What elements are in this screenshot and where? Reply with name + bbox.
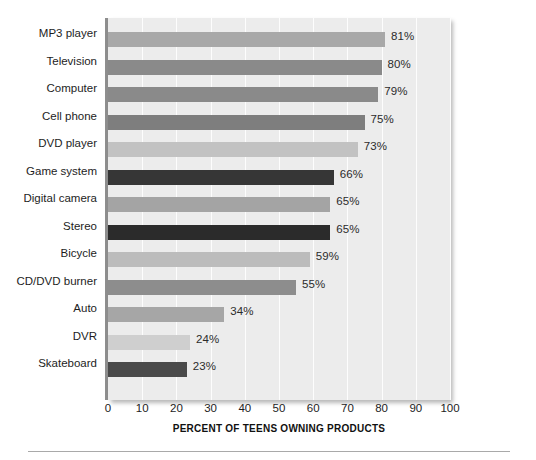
bar: [108, 32, 385, 47]
category-label-game-system: Game system: [26, 158, 101, 186]
category-label-television: Television: [47, 48, 102, 76]
category-label-computer: Computer: [47, 75, 102, 103]
x-tick-10: 10: [136, 402, 149, 414]
x-tick-70: 70: [341, 402, 354, 414]
bar: [108, 115, 365, 130]
category-label-cd-dvd-burner: CD/DVD burner: [16, 268, 101, 296]
category-label-dvd-player: DVD player: [38, 130, 101, 158]
bar-value-label: 23%: [193, 360, 216, 372]
bar-value-label: 79%: [384, 85, 407, 97]
bar-row: 75%: [108, 109, 450, 137]
x-tick-100: 100: [440, 402, 459, 414]
bar: [108, 362, 187, 377]
bar-row: 23%: [108, 356, 450, 384]
bar: [108, 225, 330, 240]
bar-row: 73%: [108, 136, 450, 164]
bar: [108, 335, 190, 350]
bar-value-label: 73%: [364, 140, 387, 152]
x-tick-60: 60: [307, 402, 320, 414]
bar-row: 65%: [108, 219, 450, 247]
bar: [108, 307, 224, 322]
bar-value-label: 24%: [196, 333, 219, 345]
bar-value-label: 65%: [336, 195, 359, 207]
bar-chart-figure: 81%80%79%75%73%66%65%65%59%55%34%24%23% …: [0, 0, 536, 460]
bar: [108, 170, 334, 185]
bar-row: 79%: [108, 81, 450, 109]
category-label-bicycle: Bicycle: [61, 240, 101, 268]
x-axis-title: PERCENT OF TEENS OWNING PRODUCTS: [108, 423, 450, 434]
bar: [108, 142, 358, 157]
gridline-100: [450, 18, 451, 400]
category-label-dvr: DVR: [73, 323, 101, 351]
bar-series: 81%80%79%75%73%66%65%65%59%55%34%24%23%: [108, 18, 450, 400]
category-label-stereo: Stereo: [63, 213, 101, 241]
bar-row: 24%: [108, 329, 450, 357]
bar-value-label: 66%: [340, 168, 363, 180]
bar: [108, 87, 378, 102]
bar: [108, 60, 382, 75]
category-label-mp3-player: MP3 player: [39, 20, 101, 48]
bar: [108, 252, 310, 267]
x-axis-tick-labels: 0102030405060708090100: [0, 402, 536, 418]
bar-row: 59%: [108, 246, 450, 274]
bar-row: 80%: [108, 54, 450, 82]
bar-row: 34%: [108, 301, 450, 329]
x-tick-30: 30: [204, 402, 217, 414]
bottom-divider-rule: [28, 451, 510, 452]
bar-value-label: 34%: [230, 305, 253, 317]
x-tick-50: 50: [273, 402, 286, 414]
category-label-digital-camera: Digital camera: [24, 185, 102, 213]
bar-value-label: 65%: [336, 223, 359, 235]
category-label-skateboard: Skateboard: [38, 350, 101, 378]
bar-row: 81%: [108, 26, 450, 54]
x-tick-0: 0: [105, 402, 111, 414]
bar: [108, 280, 296, 295]
bar-value-label: 59%: [316, 250, 339, 262]
x-tick-80: 80: [375, 402, 388, 414]
bar-row: 55%: [108, 274, 450, 302]
x-tick-90: 90: [409, 402, 422, 414]
bar-value-label: 81%: [391, 30, 414, 42]
bar-row: 66%: [108, 164, 450, 192]
bar: [108, 197, 330, 212]
bar-row: 65%: [108, 191, 450, 219]
plot-area: 81%80%79%75%73%66%65%65%59%55%34%24%23%: [108, 18, 450, 400]
category-label-cell-phone: Cell phone: [42, 103, 101, 131]
x-tick-20: 20: [170, 402, 183, 414]
category-axis-labels: MP3 playerTelevisionComputerCell phoneDV…: [0, 18, 101, 400]
bar-value-label: 75%: [371, 113, 394, 125]
bar-value-label: 80%: [388, 58, 411, 70]
bar-value-label: 55%: [302, 278, 325, 290]
x-tick-40: 40: [238, 402, 251, 414]
category-label-auto: Auto: [73, 295, 101, 323]
